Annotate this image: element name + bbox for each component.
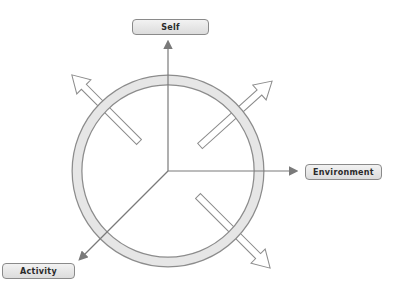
label-activity: Activity bbox=[2, 263, 75, 279]
diagram-canvas bbox=[0, 0, 399, 299]
label-self: Self bbox=[132, 19, 209, 35]
self-environment-activity-diagram: Self Environment Activity bbox=[0, 0, 399, 299]
label-environment: Environment bbox=[305, 164, 382, 180]
